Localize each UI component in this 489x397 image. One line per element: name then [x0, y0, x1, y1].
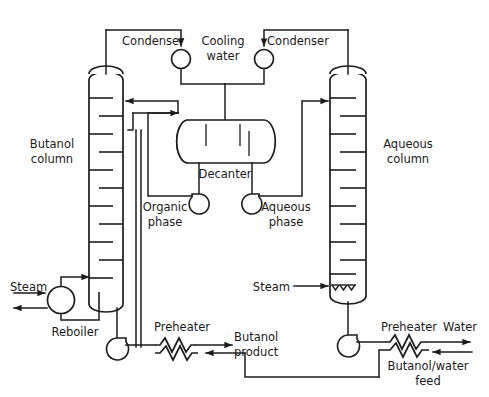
preheater-right-icon: [379, 335, 429, 357]
butanol-reflux-line: [126, 101, 178, 113]
water-bottoms-pump-icon: [338, 335, 360, 357]
label-organic-phase-2: phase: [148, 215, 183, 229]
label-feed-1: Butanol/water: [388, 359, 469, 373]
label-feed-2: feed: [415, 374, 441, 388]
label-steam-left: Steam: [10, 280, 47, 294]
aqueous-column: [330, 30, 366, 304]
pfd-canvas: Condenser Cooling water Condenser Butano…: [0, 0, 489, 397]
label-preheater-left: Preheater: [154, 320, 210, 334]
label-organic-phase-1: Organic: [143, 200, 188, 214]
condenser-right-icon: [255, 50, 274, 69]
organic-phase-pump-icon: [189, 194, 209, 214]
label-cooling-water-2: water: [207, 49, 240, 63]
butanol-bottoms-pump-icon: [107, 338, 129, 360]
label-steam-right: Steam: [253, 280, 290, 294]
label-cooling-water-1: Cooling: [201, 34, 244, 48]
reboiler-icon: [48, 287, 75, 314]
label-aqueous-phase-2: phase: [269, 215, 304, 229]
process-flow-diagram: Condenser Cooling water Condenser Butano…: [0, 0, 489, 397]
label-condenser-right: Condenser: [267, 34, 329, 48]
label-condenser-left: Condenser: [122, 34, 184, 48]
label-water: Water: [443, 320, 477, 334]
label-aqueous-column-1: Aqueous: [383, 137, 433, 151]
label-aqueous-phase-1: Aqueous: [261, 200, 311, 214]
label-butanol-product-2: product: [234, 345, 279, 359]
decanter: [177, 120, 276, 163]
label-preheater-right: Preheater: [381, 320, 437, 334]
label-butanol-product-1: Butanol: [234, 330, 278, 344]
label-decanter: Decanter: [199, 167, 252, 181]
preheater-left-icon: [155, 338, 198, 360]
condenser-left-icon: [172, 50, 191, 69]
organic-downcomer: [128, 113, 178, 347]
label-reboiler: Reboiler: [51, 325, 98, 339]
butanol-column: [89, 30, 123, 312]
label-butanol-column-2: column: [31, 152, 73, 166]
aqueous-phase-pump-icon: [242, 194, 262, 214]
label-butanol-column-1: Butanol: [30, 137, 74, 151]
label-aqueous-column-2: column: [387, 152, 429, 166]
